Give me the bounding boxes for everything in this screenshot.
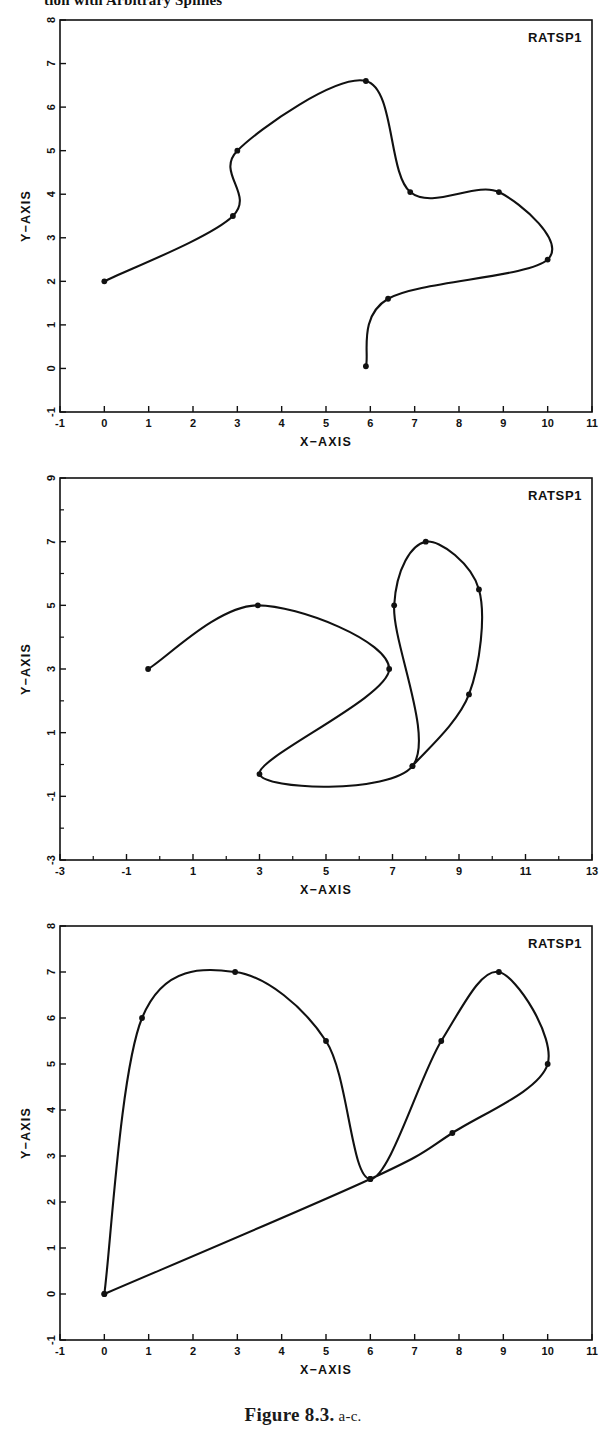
y-tick-label: -3 [45,855,57,865]
data-point-marker [255,602,261,608]
x-tick-label: 11 [586,417,598,429]
x-tick-label: 8 [456,417,462,429]
data-point-marker [323,1038,329,1044]
y-tick-label: 3 [45,1153,57,1159]
x-axis-title: X−AXIS [300,883,352,897]
y-tick-label: 8 [45,923,57,929]
x-tick-label: 11 [586,1345,598,1357]
data-point-marker [496,969,502,975]
y-tick-label: 7 [45,539,57,545]
x-tick-label: 0 [101,417,107,429]
x-tick-label: 9 [456,865,462,877]
y-tick-label: 7 [45,60,57,66]
y-tick-label: 6 [45,104,57,110]
x-tick-label: 13 [586,865,598,877]
y-tick-label: 4 [45,1106,57,1113]
figure-caption-parts: a-c. [339,1408,362,1424]
x-tick-label: 9 [500,1345,506,1357]
y-axis-title: Y−AXIS [19,643,33,695]
data-point-marker [139,1015,145,1021]
x-tick-label: 1 [146,1345,152,1357]
data-point-marker [386,666,392,672]
data-point-marker [391,602,397,608]
x-tick-label: 11 [520,865,532,877]
chart-a: -101234567891011-1012345678X−AXISY−AXISR… [0,14,606,466]
y-tick-label: 6 [45,1015,57,1021]
x-axis-title: X−AXIS [300,1363,352,1377]
figure-caption-number: Figure 8.3. [245,1404,335,1425]
series-line [148,541,482,786]
data-point-marker [385,296,391,302]
x-tick-label: -3 [55,865,65,877]
y-tick-label: 1 [45,730,57,736]
data-point-marker [101,1291,107,1297]
y-tick-label: -1 [45,1335,57,1345]
figure-panel-a: -101234567891011-1012345678X−AXISY−AXISR… [0,14,606,466]
data-point-marker [476,587,482,593]
chart-c: -101234567891011-1012345678X−AXISY−AXISR… [0,920,606,1398]
series-corner-label: RATSP1 [528,936,582,951]
data-point-marker [496,189,502,195]
data-point-marker [257,771,263,777]
x-tick-label: 3 [256,865,262,877]
x-tick-label: 6 [367,1345,373,1357]
y-tick-label: 3 [45,235,57,241]
x-tick-label: -1 [55,1345,65,1357]
series-line [104,970,548,1294]
data-point-marker [438,1038,444,1044]
y-tick-label: 2 [45,278,57,284]
x-axis-title: X−AXIS [300,435,352,449]
y-tick-label: 5 [45,602,57,608]
y-tick-label: 5 [45,1061,57,1067]
y-tick-label: -1 [45,407,57,417]
x-tick-label: 5 [323,417,329,429]
y-tick-label: 0 [45,1291,57,1297]
data-point-marker [363,363,369,369]
y-tick-label: 4 [45,190,57,197]
x-tick-label: 5 [323,865,329,877]
x-tick-label: 10 [542,417,554,429]
chart-b: -3-1135791113-3-113579X−AXISY−AXISRATSP1 [0,472,606,914]
plot-frame [60,478,592,860]
x-tick-label: -1 [122,865,132,877]
data-point-marker [410,763,416,769]
figure-panel-b: -3-1135791113-3-113579X−AXISY−AXISRATSP1 [0,472,606,914]
data-point-marker [234,148,240,154]
x-tick-label: 7 [389,865,395,877]
x-tick-label: 6 [367,417,373,429]
y-tick-label: 2 [45,1199,57,1205]
x-tick-label: 8 [456,1345,462,1357]
data-point-marker [407,189,413,195]
series-line [104,80,552,366]
x-tick-label: 10 [542,1345,554,1357]
y-axis-title: Y−AXIS [19,190,33,242]
data-point-marker [230,213,236,219]
series-corner-label: RATSP1 [528,30,582,45]
x-tick-label: 2 [190,1345,196,1357]
series-corner-label: RATSP1 [528,488,582,503]
y-axis-title: Y−AXIS [19,1107,33,1159]
y-tick-label: 3 [45,666,57,672]
data-point-marker [101,278,107,284]
y-tick-label: 1 [45,1245,57,1251]
x-tick-label: 0 [101,1345,107,1357]
x-tick-label: 4 [279,1345,286,1357]
y-tick-label: 5 [45,148,57,154]
x-tick-label: 7 [412,1345,418,1357]
data-point-marker [545,1061,551,1067]
plot-frame [60,20,592,412]
y-tick-label: -1 [45,791,57,801]
x-tick-label: 1 [146,417,152,429]
x-tick-label: 2 [190,417,196,429]
figure-panel-c: -101234567891011-1012345678X−AXISY−AXISR… [0,920,606,1398]
x-tick-label: 3 [234,417,240,429]
data-point-marker [423,539,429,545]
x-tick-label: 3 [234,1345,240,1357]
data-point-marker [466,692,472,698]
figure-caption: Figure 8.3.a-c. [0,1404,606,1426]
y-tick-label: 1 [45,322,57,328]
x-tick-label: -1 [55,417,65,429]
x-tick-label: 9 [500,417,506,429]
y-tick-label: 0 [45,365,57,371]
data-point-marker [449,1130,455,1136]
